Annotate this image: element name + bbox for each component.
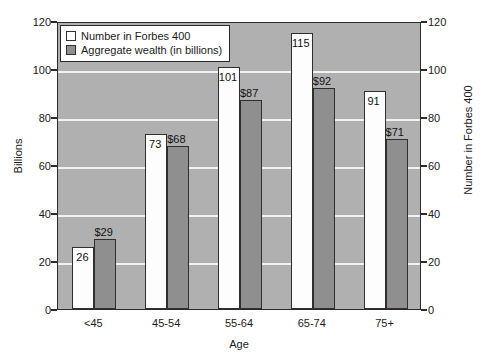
- y-axis-tick-label-right: 40: [428, 209, 468, 220]
- bar-value-label: 115: [290, 38, 312, 49]
- legend-swatch-icon: [66, 45, 76, 55]
- y-axis-tick-mark-right: [421, 213, 427, 215]
- chart-legend: Number in Forbes 400 Aggregate wealth (i…: [60, 25, 230, 62]
- bar-aggregate-wealth: [313, 88, 335, 309]
- x-axis-category-label: 45-54: [126, 317, 206, 329]
- plot-area: [57, 22, 421, 310]
- x-axis-category-label: 75+: [345, 317, 425, 329]
- bar-value-label: 101: [217, 72, 239, 83]
- y-axis-tick-mark-left: [51, 69, 57, 71]
- y-axis-tick-mark-left: [51, 213, 57, 215]
- y-axis-tick-label-right: 20: [428, 257, 468, 268]
- y-axis-tick-mark-left: [51, 165, 57, 167]
- y-axis-tick-mark-right: [421, 261, 427, 263]
- y-axis-tick-label-right: 120: [428, 17, 468, 28]
- y-axis-tick-label-left: 20: [11, 257, 51, 268]
- x-axis-category-label: <45: [53, 317, 133, 329]
- bar-value-label: $87: [240, 88, 274, 99]
- y-axis-tick-mark-right: [421, 69, 427, 71]
- bar-value-label: 73: [144, 139, 166, 150]
- y-axis-tick-label-left: 60: [11, 161, 51, 172]
- y-axis-tick-mark-left: [51, 261, 57, 263]
- y-axis-title-right: Number in Forbes 400: [462, 70, 474, 210]
- bar-aggregate-wealth: [167, 146, 189, 309]
- y-axis-tick-label-right: 80: [428, 113, 468, 124]
- legend-item-aggregate-wealth: Aggregate wealth (in billions): [66, 43, 222, 57]
- y-axis-tick-label-left: 0: [11, 305, 51, 316]
- y-axis-tick-mark-right: [421, 165, 427, 167]
- y-axis-tick-mark-right: [421, 117, 427, 119]
- bar-number-in-forbes-400: [218, 67, 240, 309]
- bar-number-in-forbes-400: [291, 33, 313, 309]
- y-axis-tick-label-left: 80: [11, 113, 51, 124]
- y-axis-tick-mark-left: [51, 21, 57, 23]
- legend-label: Number in Forbes 400: [81, 30, 190, 42]
- legend-item-number-in-forbes-400: Number in Forbes 400: [66, 29, 222, 43]
- bar-value-label: $71: [386, 127, 420, 138]
- x-axis-title: Age: [57, 338, 421, 350]
- bar-aggregate-wealth: [386, 139, 408, 309]
- bar-aggregate-wealth: [94, 239, 116, 309]
- y-axis-tick-mark-right: [421, 309, 427, 311]
- bar-value-label: $29: [94, 227, 128, 238]
- y-axis-tick-label-right: 0: [428, 305, 468, 316]
- y-axis-tick-label-right: 60: [428, 161, 468, 172]
- bar-value-label: $68: [167, 134, 201, 145]
- legend-label: Aggregate wealth (in billions): [81, 44, 222, 56]
- y-axis-tick-label-right: 100: [428, 65, 468, 76]
- bar-value-label: 26: [71, 252, 93, 263]
- y-axis-tick-label-left: 40: [11, 209, 51, 220]
- bar-value-label: 91: [363, 96, 385, 107]
- x-axis-category-label: 65-74: [272, 317, 352, 329]
- bar-value-label: $92: [313, 76, 347, 87]
- bar-chart-figure: Billions Number in Forbes 400 Age Number…: [0, 0, 485, 364]
- y-axis-title-left: Billions: [12, 116, 24, 196]
- legend-swatch-icon: [66, 31, 76, 41]
- y-axis-tick-label-left: 100: [11, 65, 51, 76]
- x-axis-category-label: 55-64: [199, 317, 279, 329]
- bar-number-in-forbes-400: [364, 91, 386, 309]
- y-axis-tick-mark-left: [51, 117, 57, 119]
- y-axis-tick-mark-left: [51, 309, 57, 311]
- bar-aggregate-wealth: [240, 100, 262, 309]
- y-axis-tick-label-left: 120: [11, 17, 51, 28]
- bar-number-in-forbes-400: [145, 134, 167, 309]
- y-axis-tick-mark-right: [421, 21, 427, 23]
